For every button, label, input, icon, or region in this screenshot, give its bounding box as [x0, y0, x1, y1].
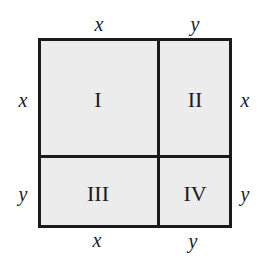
region-I-label: I	[94, 89, 101, 111]
bottom-label-y: y	[189, 231, 198, 251]
region-III-label: III	[87, 183, 109, 205]
region-II-label: II	[188, 89, 203, 111]
vertical-divider	[157, 38, 160, 228]
left-label-x: x	[19, 90, 28, 110]
bottom-label-x: x	[93, 230, 102, 250]
right-label-x: x	[241, 90, 250, 110]
left-label-y: y	[19, 184, 28, 204]
horizontal-divider	[38, 155, 232, 158]
right-label-y: y	[241, 184, 250, 204]
region-IV-label: IV	[183, 183, 206, 205]
top-label-x: x	[95, 14, 104, 34]
top-label-y: y	[191, 14, 200, 34]
